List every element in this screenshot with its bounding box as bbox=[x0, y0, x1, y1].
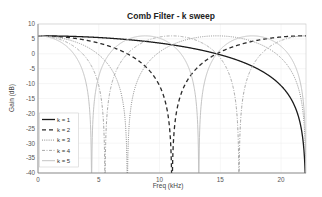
y-tick-label: 10 bbox=[28, 20, 36, 27]
x-axis-label: Freq (kHz) bbox=[153, 182, 184, 190]
y-tick-label: -20 bbox=[26, 110, 36, 117]
y-tick-label: -10 bbox=[26, 80, 36, 87]
legend-label-k2: k = 2 bbox=[57, 127, 71, 133]
y-tick-label: -25 bbox=[26, 125, 36, 132]
y-tick-label: -30 bbox=[26, 140, 36, 147]
y-tick-label: -15 bbox=[26, 95, 36, 102]
legend: k = 1k = 2k = 3k = 4k = 5 bbox=[40, 113, 79, 167]
y-axis-label: Gain (dB) bbox=[8, 84, 16, 112]
y-tick-label: -35 bbox=[26, 154, 36, 161]
y-tick-label: -40 bbox=[26, 169, 36, 176]
legend-label-k3: k = 3 bbox=[57, 137, 71, 143]
y-tick-label: 0 bbox=[31, 50, 35, 57]
chart-title: Comb Filter - k sweep bbox=[127, 11, 215, 21]
x-tick-label: 15 bbox=[217, 176, 225, 183]
x-tick-label: 5 bbox=[97, 176, 101, 183]
comb-filter-chart: Comb Filter - k sweep 1050-5-10-15-20-25… bbox=[0, 0, 322, 197]
x-tick-label: 20 bbox=[278, 176, 286, 183]
y-axis-ticks: 1050-5-10-15-20-25-30-35-40 bbox=[26, 20, 36, 176]
x-tick-label: 0 bbox=[36, 176, 40, 183]
legend-label-k5: k = 5 bbox=[57, 158, 71, 164]
legend-label-k1: k = 1 bbox=[57, 117, 71, 123]
legend-label-k4: k = 4 bbox=[57, 148, 71, 154]
y-tick-label: 5 bbox=[31, 35, 35, 42]
y-tick-label: -5 bbox=[29, 65, 35, 72]
